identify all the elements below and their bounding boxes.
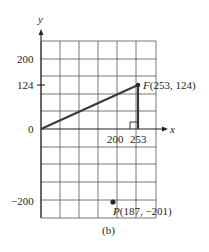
- origin-label: 0: [28, 123, 34, 135]
- point-P-label: P(187, −201): [112, 205, 172, 218]
- figure-caption: (b): [102, 224, 115, 237]
- x-axis-label: x: [169, 123, 175, 135]
- y-tick-label-200: 200: [17, 53, 34, 65]
- y-axis-label: y: [37, 13, 43, 25]
- x-tick-label-253: 253: [130, 133, 147, 145]
- x-tick-label-200: 200: [107, 133, 124, 145]
- y-axis-arrow-icon: [39, 29, 44, 35]
- point-F: [136, 83, 141, 88]
- x-axis-arrow-icon: [162, 127, 168, 132]
- y-tick-label-neg200: −200: [11, 195, 34, 207]
- segment-origin-to-F: [41, 85, 138, 129]
- point-F-label: F(253, 124): [142, 79, 196, 92]
- axes: [37, 29, 168, 218]
- y-tick-label-124: 124: [17, 79, 34, 91]
- coordinate-diagram: y x 0 200 124 −200 200 253 F(253, 124) P…: [0, 0, 209, 252]
- point-P: [110, 199, 115, 204]
